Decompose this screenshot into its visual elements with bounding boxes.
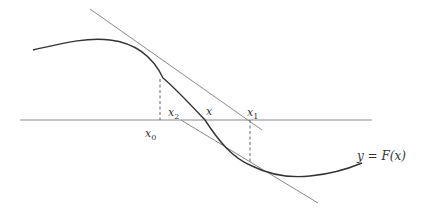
diagram-svg: x0 x2 x x1 y = F(x): [0, 0, 427, 212]
label-x2: x2: [168, 106, 179, 121]
curve-F: [33, 39, 362, 176]
label-x: x: [206, 105, 213, 118]
label-x0: x0: [145, 127, 156, 142]
label-curve: y = F(x): [356, 149, 406, 163]
label-x1: x1: [247, 106, 258, 121]
tangent-line-x1: [181, 120, 318, 203]
diagram-canvas: x0 x2 x x1 y = F(x): [0, 0, 427, 212]
